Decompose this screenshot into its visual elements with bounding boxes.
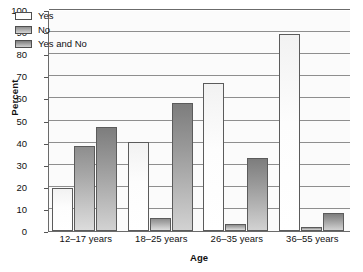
bar	[52, 188, 73, 231]
x-axis-tick-label: 26–35 years	[199, 234, 275, 244]
legend-item-label: Yes and No	[38, 39, 87, 49]
y-axis-tick-label: 70	[1, 72, 27, 82]
bar	[203, 83, 224, 231]
y-axis-tick-label: 10	[1, 205, 27, 215]
plot-area	[48, 11, 350, 232]
bar	[172, 103, 193, 231]
bar-chart-figure: Percent 0102030405060708090100 YesNoYes …	[0, 0, 363, 272]
legend-swatch-icon	[15, 12, 32, 20]
bar	[96, 127, 117, 231]
legend-swatch-icon	[15, 26, 32, 34]
legend-item[interactable]: Yes and No	[15, 37, 87, 50]
bar	[225, 224, 246, 231]
bar	[74, 146, 95, 231]
x-axis-title: Age	[48, 252, 350, 263]
y-axis-tick-label: 20	[1, 183, 27, 193]
y-axis-tick-label: 30	[1, 161, 27, 171]
bar	[128, 142, 149, 232]
y-axis-tick-label: 40	[1, 139, 27, 149]
gridline	[49, 9, 350, 10]
bar	[279, 34, 300, 231]
legend-item-label: No	[38, 25, 50, 35]
bar	[301, 227, 322, 231]
legend-item-label: Yes	[38, 11, 54, 21]
legend-item[interactable]: No	[15, 23, 87, 36]
x-axis-tick-label: 12–17 years	[48, 234, 124, 244]
legend-swatch-icon	[15, 40, 32, 48]
y-axis-tick-label: 0	[1, 227, 27, 237]
chart-legend: YesNoYes and No	[13, 7, 91, 53]
legend-item[interactable]: Yes	[15, 9, 87, 22]
y-axis-tick-label: 60	[1, 94, 27, 104]
x-axis-tick-label: 18–25 years	[124, 234, 200, 244]
y-axis-tick-mark	[44, 232, 48, 233]
bar	[323, 213, 344, 231]
y-axis-tick-label: 50	[1, 117, 27, 127]
x-axis-tick-labels: 12–17 years18–25 years26–35 years36–55 y…	[48, 234, 350, 250]
bar	[150, 218, 171, 231]
bar	[247, 158, 268, 231]
bar-group-container	[49, 11, 350, 231]
x-axis-tick-label: 36–55 years	[275, 234, 351, 244]
